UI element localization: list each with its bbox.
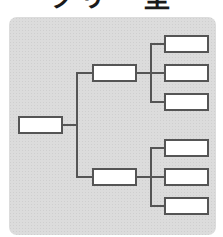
leaf4-connector [150, 147, 164, 149]
branch2-connector [76, 176, 92, 178]
leaf-node-6 [164, 197, 209, 215]
diagram-title: ツリー型 [0, 0, 223, 12]
leaf-node-3 [164, 93, 209, 111]
leaf-node-5 [164, 168, 209, 186]
branch-node-1 [92, 64, 137, 82]
leaf5-connector [150, 176, 164, 178]
level1-trunk [76, 73, 78, 178]
leaf-node-1 [164, 35, 209, 53]
leaf3-connector [150, 101, 164, 103]
leaf-node-2 [164, 64, 209, 82]
leaf6-connector [150, 205, 164, 207]
root-connector [63, 124, 77, 126]
branch1-connector [76, 72, 92, 74]
leaf-node-4 [164, 139, 209, 157]
leaf2-connector [150, 72, 164, 74]
root-node [18, 116, 63, 134]
branch-node-2 [92, 168, 137, 186]
leaf1-connector [150, 43, 164, 45]
